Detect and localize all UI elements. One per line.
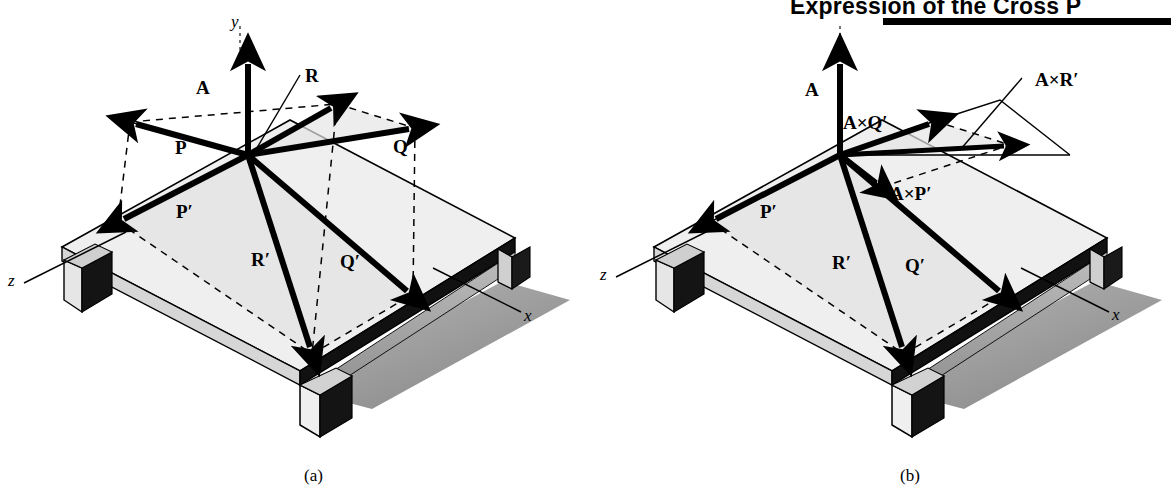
- vector-label-A-b: A: [805, 80, 819, 99]
- vector-label-A-a: A: [196, 78, 210, 97]
- vector-P-a: [136, 124, 248, 155]
- vector-label-R-a: R: [305, 66, 319, 85]
- axis-label-x-b: x: [1112, 306, 1120, 323]
- vector-label-Q-a: Q: [393, 137, 408, 156]
- axis-label-y-a: y: [231, 13, 239, 30]
- vector-label-Rprime-a: R′: [251, 250, 270, 269]
- vector-label-AxPprime-b: A×P′: [890, 184, 932, 203]
- vector-label-Qprime-b: Q′: [905, 256, 925, 275]
- vector-label-Pprime-a: P′: [176, 202, 193, 221]
- vector-label-Qprime-a: Q′: [340, 252, 360, 271]
- figure-page: Expression of the Cross P: [0, 0, 1171, 499]
- axis-label-x-a: x: [524, 307, 532, 324]
- figure-caption-a: (a): [304, 466, 323, 486]
- axis-label-z-b: z: [600, 266, 607, 283]
- figure-caption-b: (b): [900, 466, 920, 486]
- vector-label-Rprime-b: R′: [832, 253, 851, 272]
- vector-label-AxRprime-b: A×R′: [1035, 70, 1079, 89]
- vector-label-Pprime-b: P′: [760, 202, 777, 221]
- vector-label-P-a: P: [175, 138, 187, 157]
- figure-artwork: [0, 0, 1171, 499]
- header-rule: [883, 18, 1171, 25]
- axis-label-z-a: z: [8, 272, 15, 289]
- vector-label-AxQprime-b: A×Q′: [843, 113, 888, 132]
